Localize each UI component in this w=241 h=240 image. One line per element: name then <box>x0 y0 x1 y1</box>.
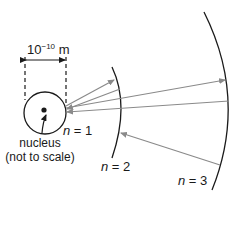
nucleus <box>41 107 46 112</box>
scale-unit: m <box>55 42 69 57</box>
nucleus-pointer <box>42 115 46 133</box>
orbit-n1 <box>24 92 66 134</box>
label-n2: n = 2 <box>101 160 130 173</box>
n-value: = 1 <box>70 123 92 138</box>
nucleus-label: nucleus <box>2 137 78 151</box>
nucleus-note: (not to scale) <box>2 151 78 165</box>
n-value: = 2 <box>108 159 130 174</box>
scale-label: 10−10 m <box>27 43 70 56</box>
label-n3: n = 3 <box>178 174 207 187</box>
scale-exponent: −10 <box>41 42 55 51</box>
scale-base: 10 <box>27 42 41 57</box>
n-value: = 3 <box>185 173 207 188</box>
label-n1: n = 1 <box>63 124 92 137</box>
nucleus-caption: nucleus (not to scale) <box>2 137 78 165</box>
